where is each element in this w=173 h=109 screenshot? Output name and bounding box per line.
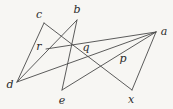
segment-b-d: [17, 20, 77, 82]
point-label-e: e: [59, 95, 66, 106]
point-label-r: r: [36, 41, 41, 52]
figure-canvas: [0, 0, 173, 109]
point-label-b: b: [73, 4, 80, 15]
point-label-d: d: [6, 79, 13, 90]
point-label-c: c: [36, 9, 42, 20]
point-label-a: a: [161, 26, 168, 37]
point-label-q: q: [82, 42, 89, 53]
segment-group: [17, 20, 156, 90]
segment-b-e: [62, 20, 77, 90]
segment-a-x: [132, 32, 156, 90]
point-label-x: x: [128, 94, 134, 105]
point-label-p: p: [119, 53, 126, 64]
segment-c-d: [17, 23, 44, 82]
geometry-figure: abcdexpqr: [0, 0, 173, 109]
